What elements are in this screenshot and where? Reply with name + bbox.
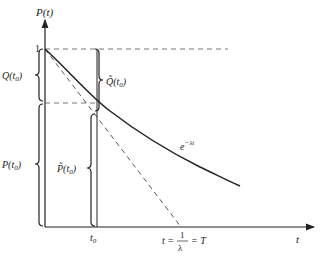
p-label: P(t0) [1,159,22,172]
t0-label: t0 [90,232,97,245]
reliability-diagram: P(t) t 1 e−λt t0 Q(t0) P(t0) Q̃(t0) P̃(t… [0,0,321,258]
p-tilde-brace [87,114,95,226]
y-axis-label: P(t) [35,6,53,19]
intercept-left: t = [162,235,174,246]
x-axis-label: t [296,233,300,245]
intercept-num: 1 [180,230,185,240]
intercept-den: λ [178,243,183,253]
q-tilde-brace [95,49,103,111]
p-brace [35,104,43,226]
p-tilde-label: P̃(t0) [56,162,77,176]
curve-label: e−λt [180,139,195,152]
q-tilde-label: Q̃(t0) [106,75,127,89]
q-brace [35,49,43,101]
intercept-right: = T [191,235,207,246]
q-label: Q(t0) [2,70,23,83]
